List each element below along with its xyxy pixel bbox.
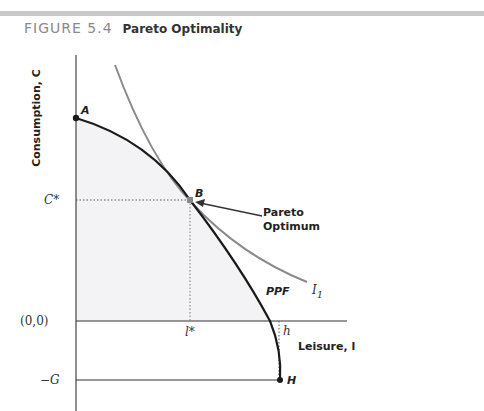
label-h: H (287, 374, 296, 387)
annotation-line2: Optimum (263, 220, 320, 233)
feasible-region (76, 118, 270, 321)
pareto-arrow (200, 203, 262, 216)
arrowhead-icon (195, 199, 205, 207)
x-axis-label: Leisure, l (298, 340, 355, 353)
y-axis-label: Consumption, C (30, 69, 43, 167)
label-a: A (80, 104, 90, 117)
label-i1: I1 (311, 283, 323, 300)
label-b: B (195, 187, 203, 200)
label-i1-sub: 1 (317, 289, 323, 300)
label-h-small: h (283, 324, 291, 338)
pareto-diagram: Consumption, C A B H C* (0,0) l* h −G Le… (0, 0, 484, 411)
point-h (277, 377, 283, 383)
label-neg-g: −G (40, 373, 60, 387)
point-a (73, 115, 79, 121)
annotation-line1: Pareto (263, 206, 304, 219)
label-ppf: PPF (266, 285, 290, 298)
point-b (187, 197, 193, 203)
label-origin: (0,0) (20, 314, 48, 328)
label-c-star: C* (44, 193, 59, 207)
label-l-star: l* (185, 325, 195, 339)
